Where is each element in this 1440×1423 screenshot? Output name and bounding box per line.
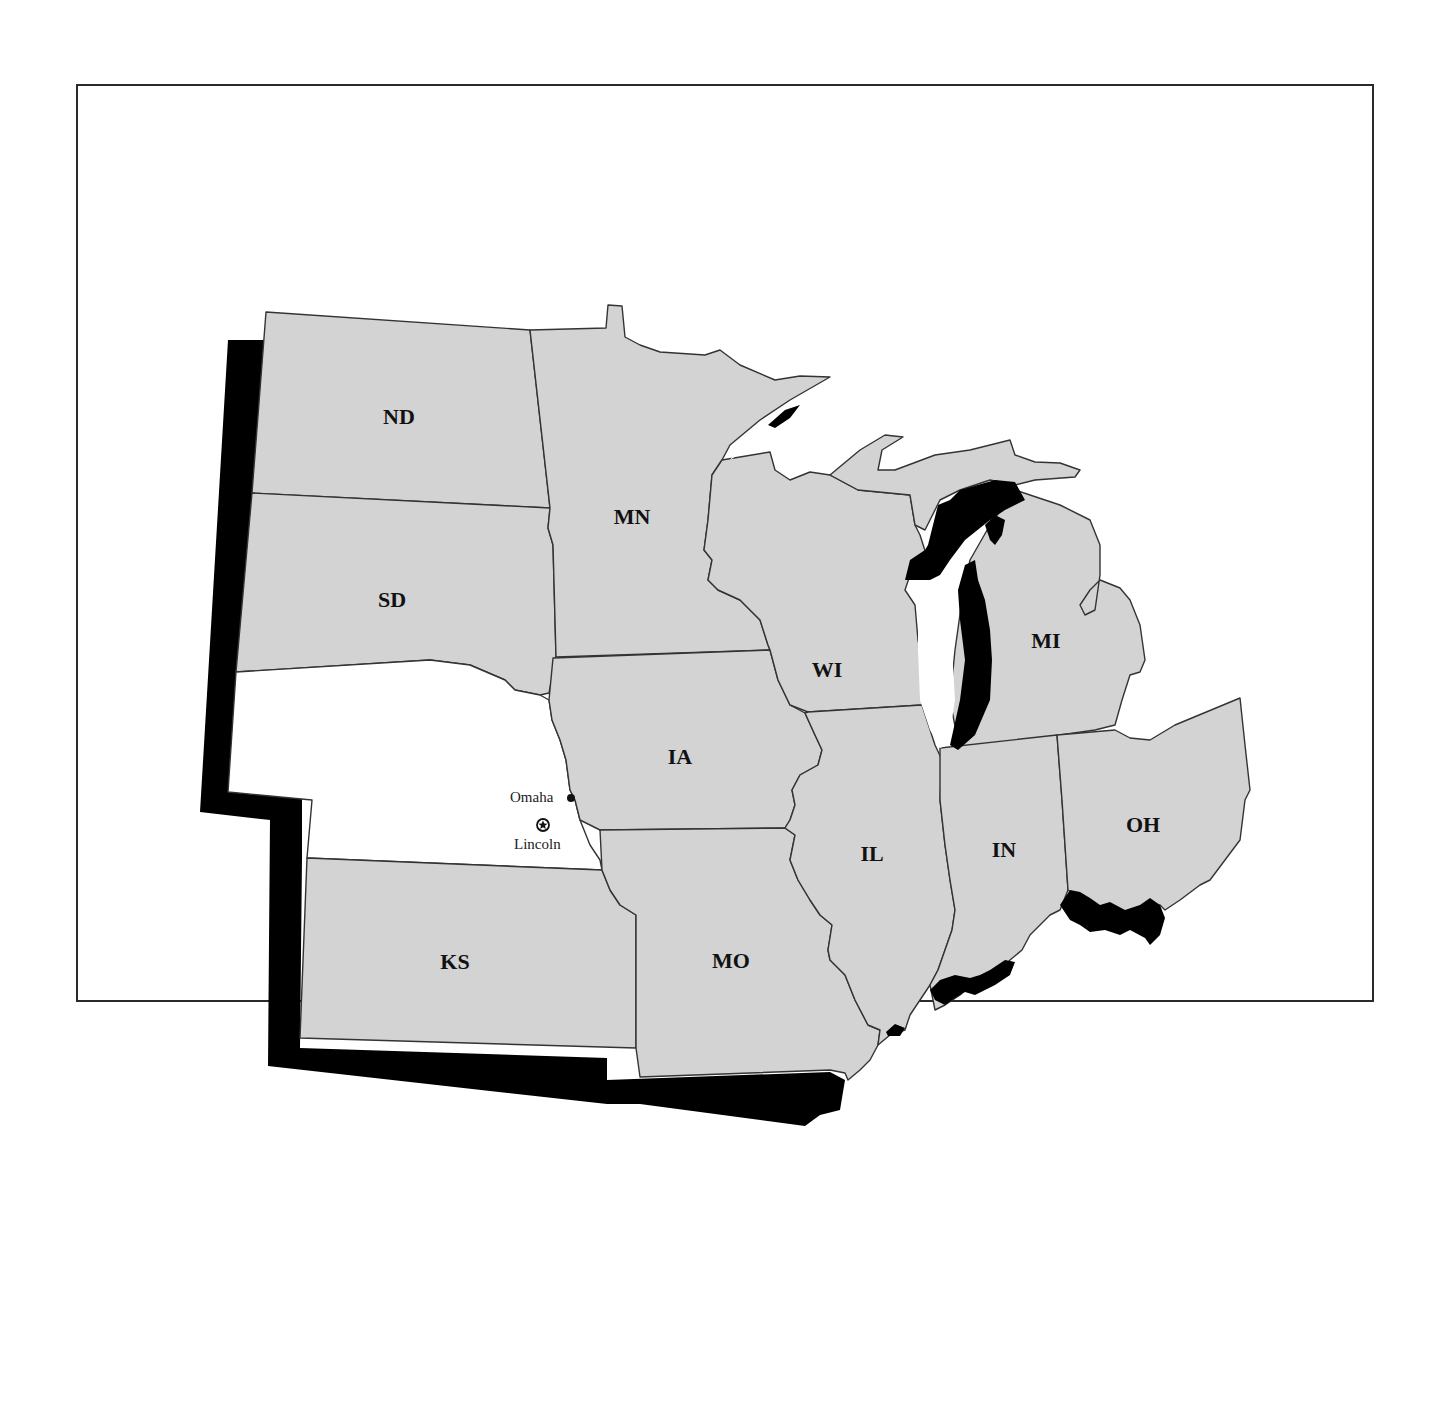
label-wi: WI	[812, 657, 843, 682]
label-oh: OH	[1126, 812, 1160, 837]
city-label-omaha: Omaha	[510, 789, 554, 805]
label-mi: MI	[1031, 628, 1060, 653]
label-ia: IA	[668, 744, 693, 769]
dot-icon	[567, 794, 575, 802]
label-sd: SD	[378, 587, 406, 612]
midwest-map: ND SD KS MN IA MO WI MI IL IN OH Omaha L…	[0, 0, 1440, 1423]
label-nd: ND	[383, 404, 415, 429]
label-in: IN	[992, 837, 1017, 862]
label-il: IL	[860, 841, 883, 866]
label-mo: MO	[712, 948, 750, 973]
label-ks: KS	[440, 949, 469, 974]
city-label-lincoln: Lincoln	[514, 836, 561, 852]
label-mn: MN	[614, 504, 651, 529]
